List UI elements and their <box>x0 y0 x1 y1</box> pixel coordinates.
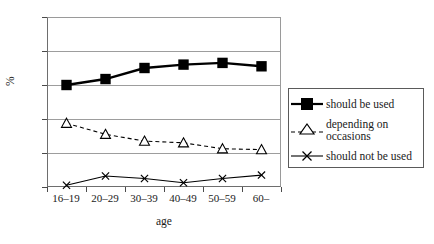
legend-label-should-not-be-used: should not be used <box>325 150 412 163</box>
series-line <box>67 175 262 185</box>
data-point-filled-square <box>178 59 188 69</box>
data-point-open-triangle <box>62 118 72 127</box>
series-line <box>67 63 262 85</box>
legend-label-should-be-used: should be used <box>325 98 394 111</box>
series-line <box>67 123 262 149</box>
data-point-filled-square <box>256 61 266 71</box>
series-should-not-be-used <box>63 172 265 189</box>
data-point-open-triangle <box>257 145 267 154</box>
series-depending-on-occasions <box>62 118 267 153</box>
legend-key-x-marker <box>289 143 325 169</box>
data-point-filled-square <box>139 63 149 73</box>
legend-label-depending-on-occasions: depending on occasions <box>325 118 425 143</box>
legend-key-filled-square <box>289 91 325 117</box>
legend-item-depending-on-occasions[interactable]: depending on occasions <box>289 117 425 143</box>
legend: should be used depending on occasions sh… <box>288 88 424 168</box>
line-chart: % 100 80 60 40 20 0 16–19 20–29 30–39 40… <box>0 0 434 244</box>
series-should-be-used <box>61 58 266 91</box>
data-point-filled-square <box>217 58 227 68</box>
data-point-filled-square <box>100 74 110 84</box>
data-point-filled-square <box>61 80 71 90</box>
legend-item-should-not-be-used[interactable]: should not be used <box>289 143 425 169</box>
data-point-x-marker <box>63 182 70 189</box>
legend-item-should-be-used[interactable]: should be used <box>289 91 425 117</box>
data-point-open-triangle <box>140 136 150 145</box>
legend-key-open-triangle <box>289 117 325 143</box>
